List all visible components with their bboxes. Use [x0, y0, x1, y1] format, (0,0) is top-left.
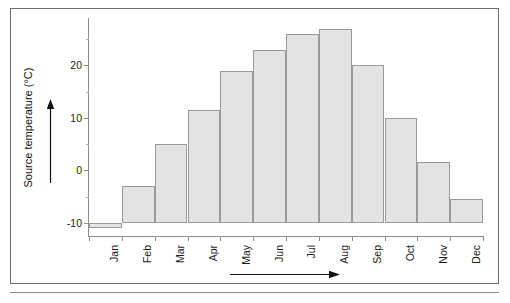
y-axis-title-label: Source temperature (°C) [24, 68, 35, 188]
x-axis-category-label: May [241, 245, 252, 265]
x-axis-category-label: Jun [274, 245, 285, 262]
x-axis-tick [319, 236, 320, 241]
y-axis-tick-label: -10 [67, 218, 82, 229]
x-axis-tick [89, 236, 90, 241]
y-axis-tick [84, 65, 89, 66]
bar [286, 34, 319, 223]
bar [450, 199, 483, 223]
bar [352, 65, 385, 223]
bar [188, 110, 221, 223]
x-axis-tick [220, 236, 221, 241]
x-axis-category-label: Mar [175, 245, 186, 263]
x-axis-tick [483, 236, 484, 241]
bar [220, 71, 253, 223]
x-axis-tick [385, 236, 386, 241]
bar [319, 29, 352, 223]
bar [122, 186, 155, 223]
x-axis-tick [417, 236, 418, 241]
y-axis-tick [84, 223, 89, 224]
x-axis-tick [352, 236, 353, 241]
x-axis-category-label: Apr [208, 245, 219, 261]
x-axis-category-label: Aug [339, 245, 350, 264]
bar-series [89, 18, 483, 236]
x-axis-category-label: Oct [405, 245, 416, 261]
y-axis-minor-tick [86, 39, 89, 40]
plot-area: 20100-10JanFebMarAprMayJunJulAugSepOctNo… [88, 18, 483, 237]
figure-container: Source temperature (°C) 20100-10JanFebMa… [0, 0, 510, 303]
x-axis-category-label: Dec [471, 245, 482, 264]
x-axis-category-label: Nov [438, 245, 449, 264]
x-axis-tick [122, 236, 123, 241]
y-axis-title: Source temperature (°C) [21, 18, 37, 237]
x-axis-tick [286, 236, 287, 241]
x-axis-category-label: Jan [109, 245, 120, 262]
y-axis-tick-label: 10 [70, 113, 82, 124]
x-axis-tick [155, 236, 156, 241]
bar [253, 50, 286, 223]
bar [385, 118, 418, 223]
x-axis-tick [253, 236, 254, 241]
y-axis-tick-label: 0 [76, 165, 82, 176]
bar [417, 162, 450, 222]
x-axis-category-label: Sep [372, 245, 383, 264]
x-axis-tick [188, 236, 189, 241]
x-axis-direction-arrow [230, 270, 340, 279]
y-axis-tick [84, 118, 89, 119]
y-axis-minor-tick [86, 197, 89, 198]
bar [89, 223, 122, 228]
y-axis-tick-label: 20 [70, 60, 82, 71]
x-axis-category-label: Feb [142, 245, 153, 263]
y-axis-direction-arrow [46, 99, 55, 183]
x-axis-category-label: Jul [306, 245, 317, 258]
y-axis-tick [84, 170, 89, 171]
y-axis-minor-tick [86, 144, 89, 145]
caption-divider-rule [10, 292, 499, 293]
y-axis-minor-tick [86, 92, 89, 93]
x-axis-tick [450, 236, 451, 241]
bar [155, 144, 188, 223]
